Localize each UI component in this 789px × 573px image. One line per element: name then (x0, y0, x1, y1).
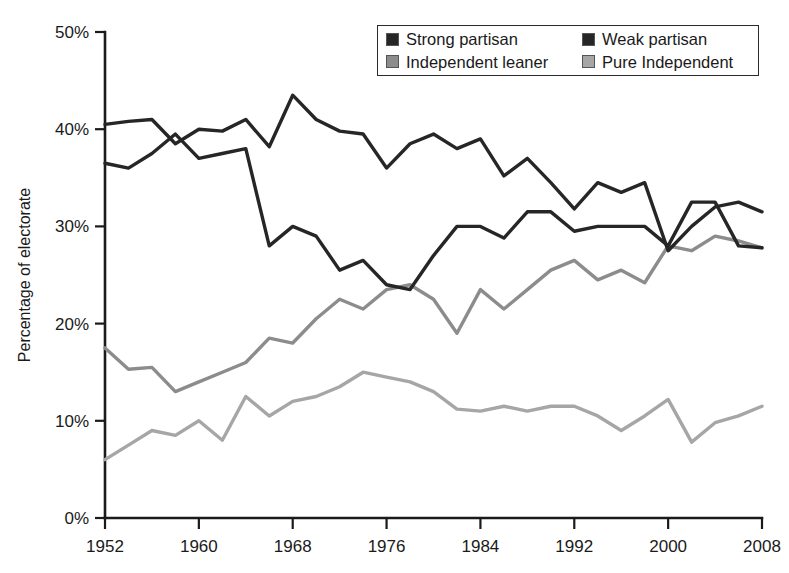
x-tick-label: 1960 (180, 537, 218, 556)
x-tick-label: 1968 (274, 537, 312, 556)
chart-container: 0%10%20%30%40%50% 1952196019681976198419… (0, 0, 789, 573)
series-lines (105, 95, 762, 460)
legend-swatch-strong-partisan (386, 33, 399, 46)
x-axis: 19521960196819761984199220002008 (86, 518, 781, 556)
x-tick-label: 2008 (743, 537, 781, 556)
legend-label-strong-partisan: Strong partisan (406, 31, 518, 48)
chart-legend: Strong partisan Weak partisan Independen… (377, 25, 759, 76)
x-tick-label: 1984 (462, 537, 500, 556)
x-tick-label: 1976 (368, 537, 406, 556)
y-tick-label: 0% (64, 509, 89, 528)
y-tick-label: 10% (55, 412, 89, 431)
y-tick-label: 50% (55, 23, 89, 42)
y-tick-label: 30% (55, 217, 89, 236)
y-tick-label: 20% (55, 315, 89, 334)
x-tick-label: 1952 (86, 537, 124, 556)
legend-label-weak-partisan: Weak partisan (602, 31, 707, 48)
y-axis-title: Percentage of electorate (16, 188, 33, 362)
series-line-pure-independent (105, 372, 762, 459)
y-axis: 0%10%20%30%40%50% (55, 23, 105, 528)
legend-label-pure-independent: Pure Independent (602, 54, 733, 71)
legend-item-strong-partisan: Strong partisan (386, 31, 582, 48)
x-tick-label: 2000 (649, 537, 687, 556)
legend-item-independent-leaner: Independent leaner (386, 54, 582, 71)
legend-item-weak-partisan: Weak partisan (582, 31, 768, 48)
x-tick-label: 1992 (555, 537, 593, 556)
legend-swatch-weak-partisan (582, 33, 595, 46)
y-tick-label: 40% (55, 120, 89, 139)
series-line-strong-partisan (105, 134, 762, 290)
series-line-weak-partisan (105, 95, 762, 251)
legend-label-independent-leaner: Independent leaner (406, 54, 548, 71)
legend-swatch-pure-independent (582, 55, 595, 68)
legend-item-pure-independent: Pure Independent (582, 54, 768, 71)
line-chart-plot: 0%10%20%30%40%50% 1952196019681976198419… (0, 0, 789, 573)
series-line-independent-leaner (105, 236, 762, 392)
legend-swatch-independent-leaner (386, 55, 399, 68)
